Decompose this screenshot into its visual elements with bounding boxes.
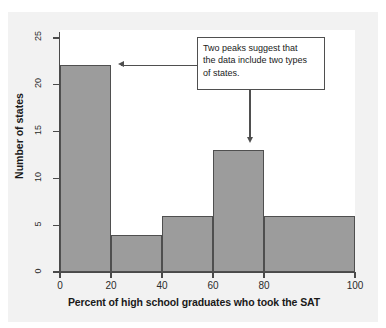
annotation-leader-vertical — [249, 90, 250, 138]
x-tick-20 — [110, 272, 111, 278]
annotation-line-3: of states. — [203, 67, 319, 79]
x-axis-label: Percent of high school graduates who too… — [24, 296, 364, 308]
annotation-callout: Two peaks suggest that the data include … — [197, 37, 325, 90]
x-tick-label-20: 20 — [96, 280, 126, 291]
x-tick-40 — [161, 272, 162, 278]
x-tick-label-0: 0 — [45, 280, 75, 291]
annotation-arrow-left-icon — [118, 61, 124, 67]
x-tick-label-40: 40 — [147, 280, 177, 291]
x-tick-80 — [263, 272, 264, 278]
annotation-arrow-down-icon — [247, 137, 253, 143]
x-tick-100 — [354, 272, 355, 278]
x-tick-label-100: 100 — [340, 280, 370, 291]
y-tick-label-5: 5 — [33, 214, 43, 234]
x-tick-label-80: 80 — [249, 280, 279, 291]
y-tick-15 — [53, 131, 59, 132]
x-tick-label-60: 60 — [198, 280, 228, 291]
annotation-leader-horizontal — [121, 65, 197, 66]
histogram-figure: 0 5 10 15 20 25 0 20 40 60 80 100 Number… — [0, 0, 386, 328]
y-axis-label: Number of states — [13, 81, 25, 191]
bar-60-80 — [213, 150, 264, 272]
top-text-fragment — [40, 0, 100, 10]
y-tick-label-0: 0 — [33, 261, 43, 281]
x-tick-0 — [59, 272, 60, 278]
y-tick-0 — [53, 271, 59, 272]
y-tick-label-25: 25 — [33, 26, 43, 46]
y-tick-label-15: 15 — [33, 120, 43, 140]
y-tick-25 — [53, 37, 59, 38]
annotation-line-1: Two peaks suggest that — [203, 42, 319, 54]
y-tick-10 — [53, 178, 59, 179]
y-tick-5 — [53, 225, 59, 226]
x-tick-60 — [212, 272, 213, 278]
y-tick-label-20: 20 — [33, 73, 43, 93]
bar-0-20 — [60, 65, 111, 272]
annotation-line-2: the data include two types — [203, 54, 319, 66]
bar-40-60 — [162, 216, 213, 272]
bar-80-100 — [264, 216, 355, 272]
y-tick-label-10: 10 — [33, 167, 43, 187]
y-tick-20 — [53, 84, 59, 85]
bar-20-40 — [111, 235, 162, 272]
